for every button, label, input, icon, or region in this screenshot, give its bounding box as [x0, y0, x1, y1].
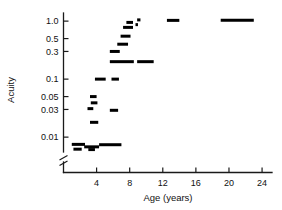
y-tick-label-0.05: 0.05 [41, 92, 59, 102]
x-tick-label-20: 20 [224, 178, 234, 188]
x-tick-label-12: 12 [158, 178, 168, 188]
y-axis-ticks [64, 21, 69, 137]
data-segments-layer [72, 20, 254, 150]
x-tick-label-24: 24 [257, 178, 267, 188]
x-tick-label-8: 8 [127, 178, 132, 188]
y-axis-tick-labels: 1.00.50.30.10.050.030.01 [41, 16, 59, 142]
x-axis-tick-labels: 4812162024 [94, 178, 267, 188]
x-axis-title: Age (years) [143, 192, 192, 203]
chart-canvas: 1.00.50.30.10.050.030.01 4812162024 Age … [0, 0, 282, 210]
y-tick-label-0.03: 0.03 [41, 105, 59, 115]
x-axis-ticks [97, 168, 262, 173]
y-tick-label-1.0: 1.0 [46, 16, 59, 26]
y-tick-label-0.01: 0.01 [41, 132, 59, 142]
x-tick-label-4: 4 [94, 178, 99, 188]
y-axis-title: Acuity [5, 77, 16, 103]
x-tick-label-16: 16 [191, 178, 201, 188]
y-tick-label-0.5: 0.5 [46, 34, 59, 44]
y-tick-label-0.3: 0.3 [46, 47, 59, 57]
y-tick-label-0.1: 0.1 [46, 74, 59, 84]
acuity-vs-age-chart: 1.00.50.30.10.050.030.01 4812162024 Age … [0, 0, 282, 210]
